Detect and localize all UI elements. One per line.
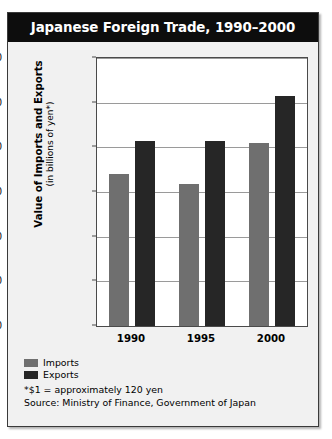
y-tick-mark xyxy=(92,146,96,147)
bar-exports-2000 xyxy=(275,96,295,326)
legend-swatch-imports xyxy=(24,359,38,367)
note-footnote: *$1 = approximately 120 yen xyxy=(24,383,309,396)
y-tick-label: 30,000 xyxy=(0,186,2,197)
y-tick-mark xyxy=(92,101,96,102)
y-axis-title: Value of Imports and Exports (in billion… xyxy=(28,44,60,244)
plot-area xyxy=(96,57,308,327)
y-tick-mark xyxy=(92,191,96,192)
chart-title: Japanese Foreign Trade, 1990–2000 xyxy=(31,20,295,35)
y-tick-label: 50,000 xyxy=(0,96,2,107)
y-axis-title-main: Value of Imports and Exports xyxy=(33,60,45,227)
legend-item-exports: Exports xyxy=(24,369,79,380)
chart-figure: Japanese Foreign Trade, 1990–2000 Value … xyxy=(7,12,319,427)
bar-imports-2000 xyxy=(249,143,269,326)
legend-swatch-exports xyxy=(24,371,38,379)
y-tick-mark xyxy=(92,57,96,58)
y-axis-title-sub: (in billions of yen*) xyxy=(45,101,55,186)
y-tick-mark xyxy=(92,280,96,281)
y-tick-label: 10,000 xyxy=(0,275,2,286)
chart-legend: Imports Exports xyxy=(24,357,79,381)
bar-imports-1990 xyxy=(109,174,129,326)
x-tick-label-1990: 1990 xyxy=(91,333,171,344)
chart-notes: *$1 = approximately 120 yen Source: Mini… xyxy=(24,383,309,409)
y-tick-mark xyxy=(92,235,96,236)
y-tick-label: 60,000 xyxy=(0,52,2,63)
chart-title-bar: Japanese Foreign Trade, 1990–2000 xyxy=(8,13,318,42)
legend-item-imports: Imports xyxy=(24,357,79,368)
bar-exports-1995 xyxy=(205,141,225,326)
y-tick-label: 0 xyxy=(0,320,2,331)
bar-exports-1990 xyxy=(135,141,155,326)
gridline xyxy=(97,58,307,59)
legend-label-exports: Exports xyxy=(43,369,79,380)
y-tick-label: 40,000 xyxy=(0,141,2,152)
bar-imports-1995 xyxy=(179,184,199,326)
legend-label-imports: Imports xyxy=(43,357,79,368)
x-tick-label-2000: 2000 xyxy=(231,333,311,344)
x-tick-label-1995: 1995 xyxy=(161,333,241,344)
y-tick-mark xyxy=(92,325,96,326)
chart-panel: Value of Imports and Exports (in billion… xyxy=(8,42,318,426)
note-source: Source: Ministry of Finance, Government … xyxy=(24,396,309,409)
y-tick-label: 20,000 xyxy=(0,230,2,241)
